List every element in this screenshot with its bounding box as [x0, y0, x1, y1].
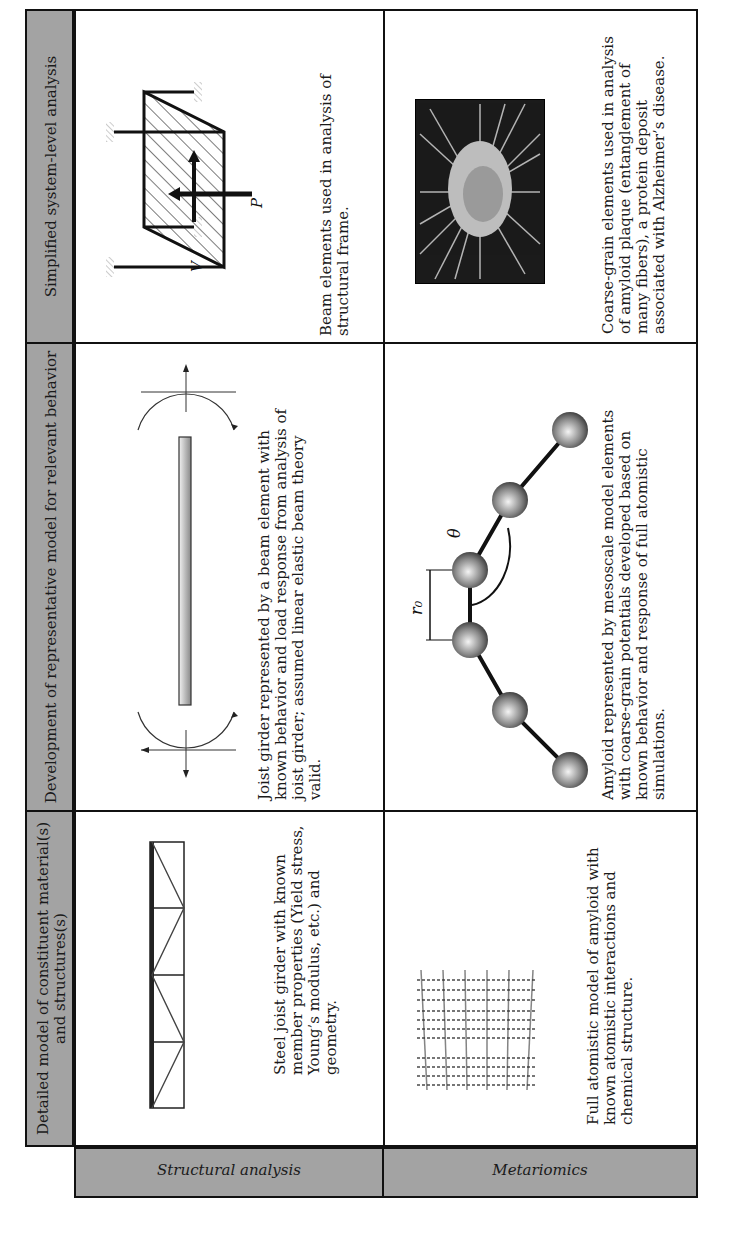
column-header-row: Detailed model of constituent material(s… [25, 9, 74, 1147]
column-header-system-level: Simplified system-level analysis [27, 11, 76, 342]
table-cell: Joist girder represented by a beam eleme… [76, 344, 383, 810]
row-label-structural-analysis: Structural analysis [76, 1145, 384, 1196]
load-label-p: P [248, 197, 264, 209]
steel-joist-truss-figure [148, 840, 190, 1110]
amyloid-plaque-micrograph [415, 99, 545, 284]
cell-description: Amyloid represented by mesoscale model e… [600, 380, 668, 800]
cell-description: Beam elements used in analysis of struct… [318, 36, 352, 336]
row-label-column: Structural analysis Metariomics [74, 1147, 698, 1198]
table-cell: Steel joist girder with known member pro… [76, 812, 383, 1145]
beam-element-figure [136, 360, 246, 790]
table-cell: Coarse-grain elements used in analysis o… [385, 11, 698, 342]
row-label-text: Metariomics [492, 1161, 587, 1179]
cell-description: Coarse-grain elements used in analysis o… [600, 34, 668, 334]
row-label-metariomics: Metariomics [384, 1145, 696, 1196]
cell-description: Steel joist girder with known member pro… [272, 825, 340, 1075]
load-label-v: V [188, 259, 206, 272]
cell-description: Joist girder represented by a beam eleme… [256, 400, 324, 800]
column-header-detailed-model: Detailed model of constituent material(s… [27, 810, 76, 1145]
table-cell: r₀ θ Amyloid represented by mesoscale mo… [385, 344, 698, 810]
bond-angle-label: θ [445, 528, 464, 538]
column-header-text: Development of representative model for … [43, 351, 60, 803]
column-header-representative-model: Development of representative model for … [27, 342, 76, 810]
coarse-grain-bead-chain-figure: r₀ θ [390, 390, 590, 800]
bond-length-label: r₀ [407, 600, 426, 615]
table-body: Steel joist girder with known member pro… [74, 9, 698, 1147]
column-header-text: Simplified system-level analysis [43, 56, 60, 297]
cell-description: Full atomistic model of amyloid with kno… [585, 825, 636, 1125]
table-cell: Full atomistic model of amyloid with kno… [385, 812, 698, 1145]
table-cell: P V Beam elements used in analysis of st… [76, 11, 383, 342]
atomistic-amyloid-figure [407, 950, 547, 1100]
structural-frame-figure: P V [84, 42, 264, 312]
row-label-text: Structural analysis [157, 1161, 301, 1179]
multiscale-comparison-table: Detailed model of constituent material(s… [25, 9, 698, 1198]
column-header-text: Detailed model of constituent material(s… [35, 818, 69, 1139]
